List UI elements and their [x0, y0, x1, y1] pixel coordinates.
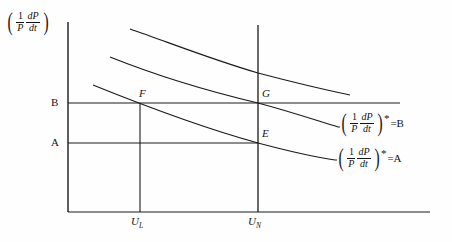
phillips-curve-figure: (1PdPdt) B A F G E UL UN (1PdPdt)*=B (1P…	[0, 0, 452, 242]
curve-b-numerator-2: dP	[360, 112, 373, 124]
y-axis-numerator-1: 1	[16, 11, 24, 23]
curve-a-denominator-1: P	[347, 159, 355, 170]
y-axis-tick-label-a: A	[51, 137, 59, 148]
y-axis-numerator-2: dP	[26, 11, 39, 23]
curve-b-numerator-1: 1	[350, 112, 358, 124]
curve-label-b-expression: (1PdPdt)*=B	[340, 112, 404, 134]
fraction-dp-over-dt: dPdt	[357, 147, 370, 169]
curve-a-denominator-2: dt	[357, 159, 370, 170]
curve-b-denominator-2: dt	[360, 124, 373, 135]
x-axis-tick-un-subscript: N	[256, 221, 261, 230]
fraction-dp-over-dt: dPdt	[26, 11, 39, 33]
x-axis-tick-ul-base: U	[131, 215, 139, 227]
curve-b-star: *	[384, 113, 390, 124]
right-paren-glyph: )	[377, 113, 382, 133]
left-paren-glyph: (	[342, 113, 347, 133]
y-axis-denominator-2: dt	[26, 23, 39, 34]
y-axis-denominator-1: P	[16, 23, 24, 34]
left-paren-glyph: (	[8, 12, 13, 32]
curve-a-star: *	[381, 148, 387, 159]
left-paren-glyph: (	[339, 148, 344, 168]
y-axis-tick-label-b: B	[51, 97, 58, 108]
y-axis-label-expression: (1PdPdt)	[6, 11, 50, 33]
phillips-curve-bottom	[93, 85, 335, 160]
curve-a-numerator-2: dP	[357, 147, 370, 159]
x-axis-tick-label-un: UN	[248, 216, 261, 230]
point-label-f: F	[139, 88, 146, 99]
y-axis-label: (1PdPdt)	[6, 11, 50, 33]
x-axis-tick-un-base: U	[248, 215, 256, 227]
fraction-one-over-p: 1P	[347, 147, 355, 169]
point-label-g: G	[262, 88, 270, 99]
right-paren-glyph: )	[374, 148, 379, 168]
curve-label-expected-inflation-b: (1PdPdt)*=B	[340, 112, 404, 134]
curve-a-numerator-1: 1	[347, 147, 355, 159]
point-label-e: E	[262, 128, 269, 139]
phillips-curve-top	[130, 29, 350, 95]
fraction-dp-over-dt: dPdt	[360, 112, 373, 134]
curve-a-equals-value: =A	[387, 153, 401, 164]
curve-b-denominator-1: P	[350, 124, 358, 135]
curve-b-equals-value: =B	[390, 118, 404, 129]
fraction-one-over-p: 1P	[350, 112, 358, 134]
x-axis-tick-ul-subscript: L	[139, 221, 143, 230]
y-axis-fractions: 1PdPdt	[14, 11, 41, 33]
curve-label-a-fractions: 1PdPdt	[345, 147, 372, 169]
right-paren-glyph: )	[43, 12, 48, 32]
curve-label-a-expression: (1PdPdt)*=A	[337, 147, 402, 169]
fraction-one-over-p: 1P	[16, 11, 24, 33]
curve-label-expected-inflation-a: (1PdPdt)*=A	[337, 147, 402, 169]
x-axis-tick-label-ul: UL	[131, 216, 143, 230]
curve-label-b-fractions: 1PdPdt	[348, 112, 375, 134]
